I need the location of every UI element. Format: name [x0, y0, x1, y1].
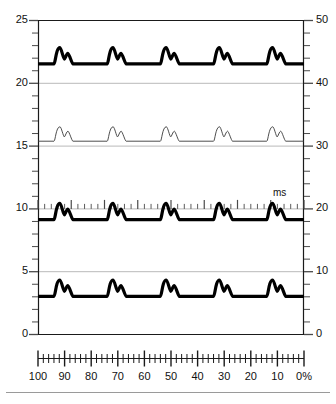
- waveform-trace-1: [38, 48, 304, 64]
- right-axis-label-10: 10: [316, 265, 336, 276]
- chart-canvas: [0, 0, 336, 404]
- waveform-trace-4: [38, 280, 304, 296]
- left-axis-label-25: 25: [6, 14, 28, 25]
- left-axis-label-5: 5: [6, 265, 28, 276]
- left-axis-label-10: 10: [6, 202, 28, 213]
- left-axis-label-15: 15: [6, 140, 28, 151]
- bottom-scale-label-0: 0%: [287, 371, 321, 382]
- footer-rule: [6, 392, 330, 393]
- ms-unit-label: ms: [273, 188, 286, 198]
- right-axis-label-0: 0: [316, 328, 336, 339]
- right-axis-label-20: 20: [316, 202, 336, 213]
- left-axis-label-0: 0: [6, 328, 28, 339]
- right-axis-label-30: 30: [316, 140, 336, 151]
- left-axis-label-20: 20: [6, 77, 28, 88]
- chart-figure: 2520151050 50403020100 10090807060504030…: [0, 0, 336, 404]
- waveform-trace-2: [38, 127, 304, 141]
- right-axis-label-40: 40: [316, 77, 336, 88]
- right-axis-label-50: 50: [316, 14, 336, 25]
